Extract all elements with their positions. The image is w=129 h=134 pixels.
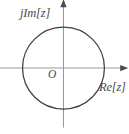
imaginary-axis-arrowhead — [60, 0, 66, 7]
real-axis-label: Re[z] — [99, 81, 126, 94]
origin-label: O — [48, 69, 56, 81]
figure-container: jIm[z] Re[z] O — [0, 0, 129, 134]
real-axis-arrowhead — [120, 65, 128, 71]
imaginary-axis-label: jIm[z] — [20, 7, 50, 20]
complex-plane-diagram — [0, 0, 129, 134]
